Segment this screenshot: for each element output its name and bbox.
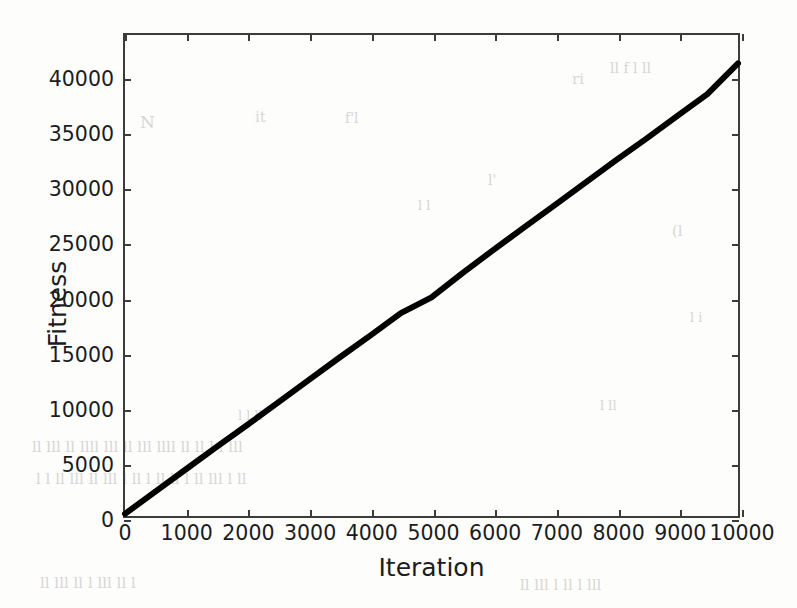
x-tick-label: 2000 (222, 521, 274, 545)
scan-artifact: ll lll ll l lll ll l (40, 574, 136, 592)
x-tick-label: 0 (118, 521, 131, 545)
fitness-line (125, 63, 738, 513)
y-tick-label: 20000 (49, 288, 114, 312)
x-tick-label: 1000 (161, 521, 213, 545)
y-tick-label: 5000 (62, 453, 114, 477)
x-tick-label: 8000 (593, 521, 645, 545)
x-tick-label: 6000 (469, 521, 521, 545)
y-tick-label: 25000 (49, 232, 114, 256)
y-tick-label: 30000 (49, 177, 114, 201)
y-tick-label: 10000 (49, 398, 114, 422)
figure-page: Nitf'lrill f l ll(ll'l ll ill lll ll lll… (0, 0, 797, 608)
y-tick-label: 35000 (49, 122, 114, 146)
plot-area: 0500010000150002000025000300003500040000… (123, 33, 740, 518)
x-tick-label: 3000 (284, 521, 336, 545)
y-tick-label: 40000 (49, 67, 114, 91)
x-tick-label: 4000 (346, 521, 398, 545)
y-tick-label: 0 (101, 508, 114, 532)
x-tick-label: 7000 (531, 521, 583, 545)
x-tick-label: 5000 (407, 521, 459, 545)
x-axis-label: Iteration (123, 553, 740, 582)
x-tick-mark (742, 510, 744, 517)
x-tick-mark-top (742, 34, 744, 41)
x-tick-label: 9000 (654, 521, 706, 545)
y-tick-label: 15000 (49, 343, 114, 367)
data-series-layer (125, 35, 738, 516)
x-tick-label: 10000 (709, 521, 774, 545)
